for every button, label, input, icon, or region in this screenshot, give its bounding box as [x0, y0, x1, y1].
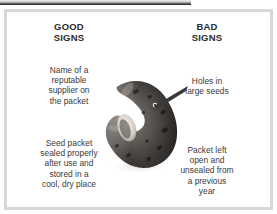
column-bad-signs: BAD SIGNS: [155, 22, 259, 43]
bean-body-group: [93, 70, 189, 181]
bean-sheen: [93, 70, 189, 181]
page-edge-bar-gap: [191, 0, 277, 5]
bean-illustration: [93, 70, 189, 182]
figure-frame: GOOD SIGNS Name of a reputable supplier …: [4, 9, 273, 210]
column-heading-good-signs: GOOD SIGNS: [17, 22, 121, 43]
kidney-bean-seed-icon: [93, 70, 189, 182]
column-good-signs: GOOD SIGNS: [17, 22, 121, 43]
figure-screenshot: GOOD SIGNS Name of a reputable supplier …: [0, 0, 277, 214]
column-heading-bad-signs: BAD SIGNS: [155, 22, 259, 43]
page-edge-bar: [0, 0, 191, 5]
figure-canvas: GOOD SIGNS Name of a reputable supplier …: [7, 12, 270, 207]
